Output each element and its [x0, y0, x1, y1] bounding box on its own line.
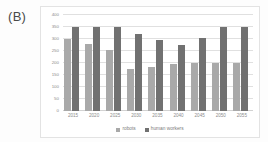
bar-robots-2035 [148, 67, 155, 111]
bar-robots-2020 [85, 44, 92, 111]
x-tick-label: 2015 [62, 114, 84, 119]
x-tick-label: 2050 [210, 114, 232, 119]
bar-robots-2025 [106, 50, 113, 111]
bar-robots-2055 [233, 63, 240, 111]
bar-group: 2020 [84, 15, 105, 111]
chart-frame: 050100150200250300350400 201520202025203… [40, 6, 260, 138]
bar-group: 2055 [232, 15, 253, 111]
chart-legend: robotshuman workers [41, 127, 259, 132]
bar-human-workers-2035 [156, 40, 163, 111]
bar-human-workers-2020 [93, 27, 100, 111]
x-tick-label: 2030 [125, 114, 147, 119]
x-tick-label: 2055 [231, 114, 253, 119]
bar-robots-2040 [170, 64, 177, 111]
bar-group: 2040 [169, 15, 190, 111]
bar-group: 2045 [190, 15, 211, 111]
bar-robots-2045 [191, 63, 198, 111]
y-tick-label: 300 [52, 37, 59, 41]
legend-swatch-icon [145, 128, 149, 132]
bar-human-workers-2055 [241, 27, 248, 111]
bar-human-workers-2045 [199, 38, 206, 111]
legend-label: robots [122, 127, 135, 132]
y-tick-label: 50 [54, 97, 59, 101]
y-tick-label: 150 [52, 73, 59, 77]
x-tick-label: 2035 [146, 114, 168, 119]
y-tick-label: 400 [52, 13, 59, 17]
bar-human-workers-2025 [114, 27, 121, 111]
bar-robots-2050 [212, 63, 219, 111]
x-tick-label: 2025 [104, 114, 126, 119]
bar-group: 2035 [147, 15, 168, 111]
y-tick-label: 250 [52, 49, 59, 53]
y-tick-label: 200 [52, 61, 59, 65]
bar-human-workers-2030 [135, 34, 142, 111]
bar-group: 2030 [126, 15, 147, 111]
x-tick-label: 2020 [83, 114, 105, 119]
x-tick-label: 2040 [168, 114, 190, 119]
legend-label: human workers [151, 127, 184, 132]
plot-area: 050100150200250300350400 201520202025203… [63, 15, 253, 111]
bar-group: 2050 [211, 15, 232, 111]
bar-robots-2015 [64, 39, 71, 111]
bar-human-workers-2015 [72, 27, 79, 111]
bar-robots-2030 [127, 69, 134, 111]
legend-item-robots: robots [116, 127, 135, 132]
y-tick-label: 350 [52, 25, 59, 29]
y-tick-label: 100 [52, 85, 59, 89]
y-tick-label: 0 [57, 109, 59, 113]
legend-item-human-workers: human workers [145, 127, 184, 132]
bar-group: 2025 [105, 15, 126, 111]
panel-label: (B) [8, 9, 26, 24]
bar-human-workers-2040 [178, 45, 185, 111]
bar-human-workers-2050 [220, 27, 227, 111]
figure-panel-b: (B) 050100150200250300350400 20152020202… [0, 0, 268, 142]
legend-swatch-icon [116, 128, 120, 132]
x-tick-label: 2045 [189, 114, 211, 119]
bar-group: 2015 [63, 15, 84, 111]
